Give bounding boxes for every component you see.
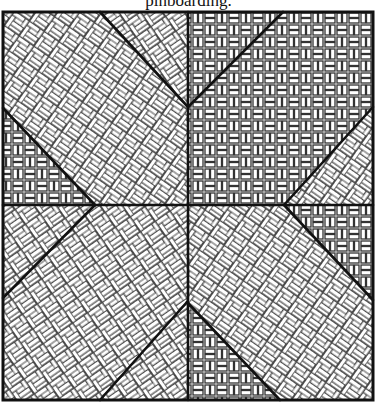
quilt-block-diagram (0, 0, 377, 402)
